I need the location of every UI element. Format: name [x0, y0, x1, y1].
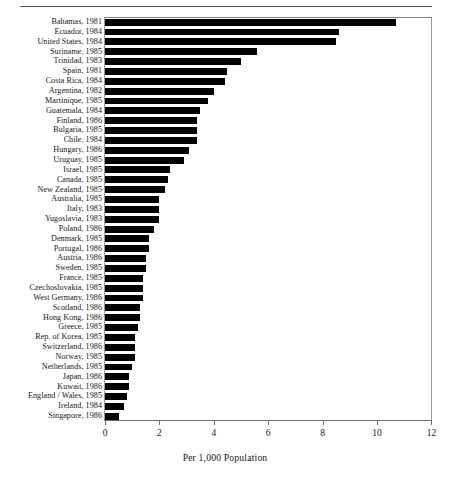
bar-row: Austria, 1986	[0, 253, 450, 263]
bar-row: Netherlands, 1985	[0, 362, 450, 372]
bar	[105, 78, 225, 85]
bar	[105, 19, 396, 26]
x-axis-tick	[377, 421, 378, 425]
bar-row: Switzerland, 1986	[0, 342, 450, 352]
bar-row: Israel, 1985	[0, 165, 450, 175]
bar-category-label: Ireland, 1984	[0, 401, 102, 411]
bar-category-label: Martinique, 1985	[0, 96, 102, 106]
bar	[105, 127, 197, 134]
bar-row: Guatemala, 1984	[0, 106, 450, 116]
top-rule-divider	[20, 6, 432, 7]
bar	[105, 245, 149, 252]
bar-category-label: Sweden, 1985	[0, 263, 102, 273]
bar-category-label: Trinidad, 1983	[0, 56, 102, 66]
bar-category-label: Canada, 1985	[0, 175, 102, 185]
bar	[105, 344, 135, 351]
bar-row: Ecuador, 1984	[0, 27, 450, 37]
bar-row: Spain, 1981	[0, 66, 450, 76]
bar	[105, 354, 135, 361]
bar-row: Greece, 1985	[0, 322, 450, 332]
bar-row: England / Wales, 1985	[0, 391, 450, 401]
bar-category-label: France, 1985	[0, 273, 102, 283]
x-axis-tick	[268, 421, 269, 425]
bar-category-label: Australia, 1985	[0, 194, 102, 204]
bar-category-label: United States, 1984	[0, 37, 102, 47]
bar-category-label: Spain, 1981	[0, 66, 102, 76]
bar-row: Ireland, 1984	[0, 401, 450, 411]
bar-category-label: Greece, 1985	[0, 322, 102, 332]
bar-category-label: Bulgaria, 1985	[0, 125, 102, 135]
bar-category-label: Ecuador, 1984	[0, 27, 102, 37]
x-axis-tick-label: 2	[144, 427, 174, 439]
bar	[105, 314, 140, 321]
bar	[105, 29, 339, 36]
bar-category-label: Japan, 1986	[0, 372, 102, 382]
bar-category-label: Chile, 1984	[0, 135, 102, 145]
bar-row: Yugoslavia, 1983	[0, 214, 450, 224]
bar	[105, 235, 149, 242]
bar	[105, 107, 200, 114]
bar-row: Uruguay, 1985	[0, 155, 450, 165]
bar	[105, 216, 159, 223]
bar-category-label: Argentina, 1982	[0, 86, 102, 96]
bar-row: Scotland, 1986	[0, 303, 450, 313]
bar-category-label: England / Wales, 1985	[0, 391, 102, 401]
bar	[105, 324, 138, 331]
bar-category-label: Kuwait, 1986	[0, 382, 102, 392]
bar-row: Suriname, 1985	[0, 47, 450, 57]
bar	[105, 304, 140, 311]
bar-row: Martinique, 1985	[0, 96, 450, 106]
bar	[105, 275, 143, 282]
bar-row: Portugal, 1986	[0, 244, 450, 254]
bar-category-label: Guatemala, 1984	[0, 106, 102, 116]
bar	[105, 285, 143, 292]
bar-category-label: Costa Rica, 1984	[0, 76, 102, 86]
bar-category-label: Suriname, 1985	[0, 47, 102, 57]
bar-row: Chile, 1984	[0, 135, 450, 145]
bar-row: Finland, 1986	[0, 116, 450, 126]
bar-category-label: New Zealand, 1985	[0, 185, 102, 195]
x-axis-tick-label: 12	[416, 427, 446, 439]
bar-row: Bulgaria, 1985	[0, 125, 450, 135]
bar	[105, 137, 197, 144]
bar-category-label: Portugal, 1986	[0, 244, 102, 254]
bar	[105, 295, 143, 302]
bar-row: Trinidad, 1983	[0, 56, 450, 66]
bar-row: Bahamas, 1981	[0, 17, 450, 27]
bar-category-label: West Germany, 1986	[0, 293, 102, 303]
x-axis-tick	[105, 421, 106, 425]
bar	[105, 98, 208, 105]
bar-category-label: Hong Kong, 1986	[0, 313, 102, 323]
x-axis-tick-label: 0	[90, 427, 120, 439]
x-axis-tick	[159, 421, 160, 425]
bar-row: Czechoslovakia, 1985	[0, 283, 450, 293]
x-axis-tick-label: 10	[362, 427, 392, 439]
bar	[105, 393, 127, 400]
bar-category-label: Poland, 1986	[0, 224, 102, 234]
bar-chart-figure: Bahamas, 1981Ecuador, 1984United States,…	[0, 0, 450, 477]
bar-category-label: Hungary, 1986	[0, 145, 102, 155]
bar-category-label: Austria, 1986	[0, 253, 102, 263]
bar	[105, 176, 168, 183]
bar	[105, 186, 165, 193]
bar-row: Argentina, 1982	[0, 86, 450, 96]
bar-category-label: Norway, 1985	[0, 352, 102, 362]
bar-row: Kuwait, 1986	[0, 382, 450, 392]
x-axis-tick-label: 4	[199, 427, 229, 439]
bar-row: West Germany, 1986	[0, 293, 450, 303]
bar-category-label: Bahamas, 1981	[0, 17, 102, 27]
bar	[105, 413, 119, 420]
x-axis-tick-label: 8	[308, 427, 338, 439]
bar-category-label: Scotland, 1986	[0, 303, 102, 313]
bar-row: Italy, 1983	[0, 204, 450, 214]
bar-row: Poland, 1986	[0, 224, 450, 234]
bar	[105, 88, 214, 95]
bar-row: Sweden, 1985	[0, 263, 450, 273]
bar-row: Norway, 1985	[0, 352, 450, 362]
bar-row: Denmark, 1985	[0, 234, 450, 244]
bar-row: France, 1985	[0, 273, 450, 283]
x-axis-tick	[214, 421, 215, 425]
bar-category-label: Italy, 1983	[0, 204, 102, 214]
bar-category-label: Israel, 1985	[0, 165, 102, 175]
bar	[105, 147, 189, 154]
